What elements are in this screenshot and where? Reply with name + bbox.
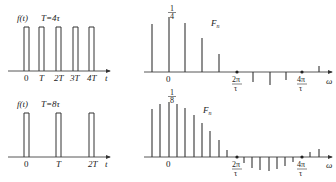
origin-label: 0 xyxy=(166,74,171,84)
origin-label: 0 xyxy=(166,159,171,169)
tick-label: 2T xyxy=(88,159,99,169)
pulse xyxy=(24,27,29,71)
period-label: T=4τ xyxy=(41,13,61,23)
zero-marker xyxy=(300,70,303,73)
tick-label: 3T xyxy=(69,73,81,83)
peak-den: 8 xyxy=(170,96,174,105)
pulse xyxy=(89,113,94,157)
pulse xyxy=(56,27,61,71)
axis-label: t xyxy=(105,159,108,169)
zero-marker xyxy=(235,70,238,73)
axis-label: ω xyxy=(326,160,332,170)
figure: f(t) T=4τ 0 T 2T 3T 4T t 1 4 Fn 0 2π τ xyxy=(0,0,336,182)
marker1-num: 2π xyxy=(232,75,240,84)
marker2-num: 4π xyxy=(297,160,305,169)
period-label: T=8τ xyxy=(41,99,61,109)
pulse xyxy=(24,113,29,157)
peak-den: 4 xyxy=(170,12,174,21)
tick-label: 0 xyxy=(24,73,29,83)
marker1-num: 2π xyxy=(232,160,240,169)
tick-label: T xyxy=(39,73,45,83)
marker2-den: τ xyxy=(299,169,303,178)
spectrum-top: 1 4 Fn 0 2π τ 4π τ ω xyxy=(144,4,332,93)
tick-label: 2T xyxy=(54,73,65,83)
pulse-train-bottom: f(t) T=8τ 0 T 2T t xyxy=(8,99,110,169)
pulse xyxy=(73,27,78,71)
tick-label: 0 xyxy=(24,159,29,169)
marker2-num: 4π xyxy=(297,75,305,84)
pulse xyxy=(39,27,44,71)
pulse xyxy=(89,27,94,71)
marker1-den: τ xyxy=(234,84,238,93)
axis-label: ω xyxy=(326,76,332,86)
zero-marker xyxy=(235,155,238,158)
func-label: f(t) xyxy=(17,99,28,109)
tick-label: T xyxy=(56,159,62,169)
func-label: f(t) xyxy=(17,13,28,23)
marker2-den: τ xyxy=(299,84,303,93)
axis-label: t xyxy=(105,73,108,83)
series-label: Fn xyxy=(210,18,220,29)
spectrum-bottom: 1 8 Fn 0 2π τ 4π τ ω xyxy=(144,88,332,178)
tick-label: 4T xyxy=(87,73,98,83)
pulse-train-top: f(t) T=4τ 0 T 2T 3T 4T t xyxy=(8,13,110,83)
marker1-den: τ xyxy=(234,169,238,178)
series-label: Fn xyxy=(202,105,212,116)
zero-marker xyxy=(300,155,303,158)
pulse xyxy=(56,113,61,157)
